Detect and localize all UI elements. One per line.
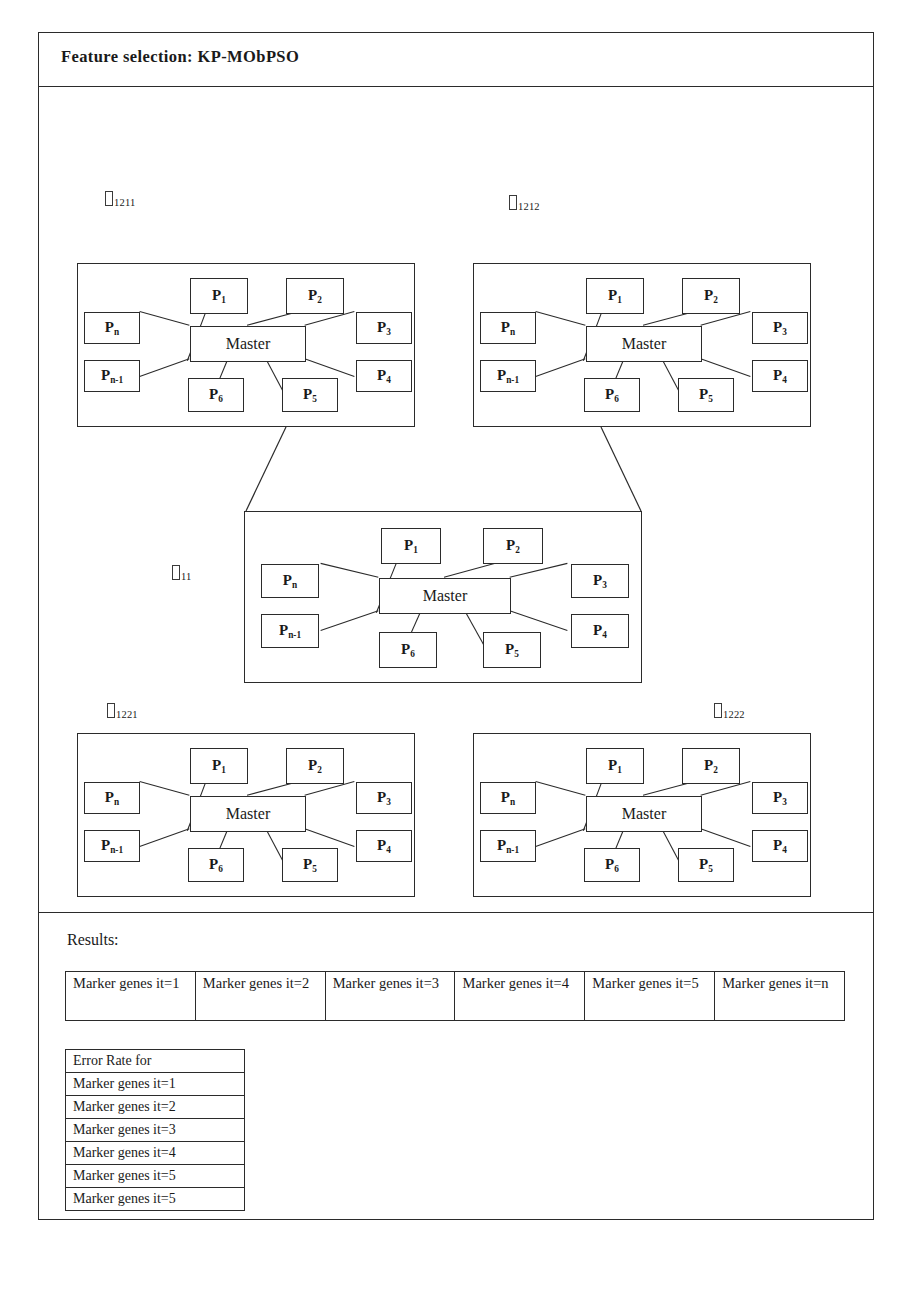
node-p4[interactable]: P4	[356, 360, 412, 392]
node-p2-label: P2	[506, 538, 520, 555]
tofu-glyph-icon	[172, 565, 180, 580]
node-p1[interactable]: P1	[586, 748, 644, 784]
node-master-label: Master	[226, 336, 270, 352]
node-p4[interactable]: P4	[752, 360, 808, 392]
node-p4-label: P4	[377, 368, 391, 385]
cluster-top-right[interactable]: Master P1 P2 P3 P4 P5 P6 Pn Pn-1	[473, 263, 811, 427]
node-p5[interactable]: P5	[282, 378, 338, 412]
node-master-label: Master	[423, 588, 467, 604]
cluster-center[interactable]: Master P1 P2 P3 P4 P5 P6 Pn Pn-1	[244, 511, 642, 683]
node-p4[interactable]: P4	[571, 614, 629, 648]
node-pn-1[interactable]: Pn-1	[480, 360, 536, 392]
node-p5[interactable]: P5	[483, 632, 541, 668]
marker-genes-table: Marker genes it=1 Marker genes it=2 Mark…	[65, 971, 845, 1021]
node-p4[interactable]: P4	[356, 830, 412, 862]
marker-cell-1[interactable]: Marker genes it=1	[66, 972, 196, 1021]
cluster-bottom-left[interactable]: Master P1 P2 P3 P4 P5 P6 Pn Pn-1	[77, 733, 415, 897]
node-p1[interactable]: P1	[586, 278, 644, 314]
node-p1[interactable]: P1	[190, 278, 248, 314]
node-p5[interactable]: P5	[282, 848, 338, 882]
error-table-header: Error Rate for	[66, 1050, 245, 1073]
error-row-1[interactable]: Marker genes it=1	[66, 1073, 245, 1096]
table-row: Marker genes it=1 Marker genes it=2 Mark…	[66, 972, 845, 1021]
node-pn-1[interactable]: Pn-1	[480, 830, 536, 862]
node-p2[interactable]: P2	[286, 278, 344, 314]
node-master[interactable]: Master	[586, 796, 702, 832]
node-p3-label: P3	[773, 790, 787, 807]
cluster-label-1222: 1222	[714, 703, 745, 720]
error-row-6[interactable]: Marker genes it=5	[66, 1188, 245, 1211]
node-master[interactable]: Master	[586, 326, 702, 362]
cluster-bottom-right[interactable]: Master P1 P2 P3 P4 P5 P6 Pn Pn-1	[473, 733, 811, 897]
node-p3-label: P3	[377, 790, 391, 807]
node-master-label: Master	[226, 806, 270, 822]
results-heading: Results:	[67, 931, 119, 949]
node-p6-label: P6	[209, 857, 223, 874]
cluster-label-11: 11	[172, 565, 192, 582]
node-p2[interactable]: P2	[286, 748, 344, 784]
node-pn-1[interactable]: Pn-1	[84, 360, 140, 392]
node-p6[interactable]: P6	[379, 632, 437, 668]
node-p2-label: P2	[308, 288, 322, 305]
node-p3[interactable]: P3	[571, 564, 629, 598]
node-master-label: Master	[622, 336, 666, 352]
node-p6[interactable]: P6	[584, 378, 640, 412]
node-p6[interactable]: P6	[584, 848, 640, 882]
node-pn-label: Pn	[501, 320, 515, 337]
node-p2[interactable]: P2	[682, 748, 740, 784]
node-p3[interactable]: P3	[752, 782, 808, 814]
error-row-3[interactable]: Marker genes it=3	[66, 1119, 245, 1142]
node-p5[interactable]: P5	[678, 848, 734, 882]
node-p6[interactable]: P6	[188, 378, 244, 412]
node-p1-label: P1	[404, 538, 418, 555]
node-pn-1[interactable]: Pn-1	[261, 614, 319, 648]
marker-cell-2[interactable]: Marker genes it=2	[195, 972, 325, 1021]
node-p4[interactable]: P4	[752, 830, 808, 862]
node-master[interactable]: Master	[190, 796, 306, 832]
node-p3[interactable]: P3	[356, 312, 412, 344]
node-pn[interactable]: Pn	[84, 782, 140, 814]
node-p6-label: P6	[209, 387, 223, 404]
node-p2-label: P2	[704, 758, 718, 775]
node-p1-label: P1	[212, 758, 226, 775]
node-p5-label: P5	[699, 387, 713, 404]
marker-cell-5[interactable]: Marker genes it=5	[585, 972, 715, 1021]
node-p1[interactable]: P1	[190, 748, 248, 784]
node-pn-label: Pn	[283, 573, 297, 590]
node-pn-1-label: Pn-1	[497, 368, 519, 385]
node-pn[interactable]: Pn	[261, 564, 319, 598]
node-p6-label: P6	[605, 387, 619, 404]
node-p5[interactable]: P5	[678, 378, 734, 412]
cluster-top-left[interactable]: Master P1 P2 P3 P4 P5 P6 Pn Pn-1	[77, 263, 415, 427]
marker-cell-3[interactable]: Marker genes it=3	[325, 972, 455, 1021]
node-p3[interactable]: P3	[752, 312, 808, 344]
node-p4-label: P4	[773, 368, 787, 385]
table-row: Marker genes it=4	[66, 1142, 245, 1165]
error-row-5[interactable]: Marker genes it=5	[66, 1165, 245, 1188]
node-p4-label: P4	[593, 623, 607, 640]
error-row-4[interactable]: Marker genes it=4	[66, 1142, 245, 1165]
diagram-area: 1211 1212 11 1221 1222 M	[39, 87, 873, 913]
cluster-label-1212: 1212	[509, 195, 540, 212]
node-p1[interactable]: P1	[381, 528, 441, 564]
error-row-2[interactable]: Marker genes it=2	[66, 1096, 245, 1119]
marker-cell-4[interactable]: Marker genes it=4	[455, 972, 585, 1021]
node-p3[interactable]: P3	[356, 782, 412, 814]
tofu-glyph-icon	[107, 703, 115, 718]
node-pn[interactable]: Pn	[480, 312, 536, 344]
node-pn-1-label: Pn-1	[101, 838, 123, 855]
node-master[interactable]: Master	[190, 326, 306, 362]
node-pn[interactable]: Pn	[84, 312, 140, 344]
marker-cell-6[interactable]: Marker genes it=n	[715, 972, 845, 1021]
node-pn-1[interactable]: Pn-1	[84, 830, 140, 862]
node-pn-1-label: Pn-1	[497, 838, 519, 855]
node-p6-label: P6	[605, 857, 619, 874]
node-pn[interactable]: Pn	[480, 782, 536, 814]
node-p3-label: P3	[377, 320, 391, 337]
node-master[interactable]: Master	[379, 578, 511, 614]
node-p2[interactable]: P2	[682, 278, 740, 314]
node-p2[interactable]: P2	[483, 528, 543, 564]
cluster-label-1211: 1211	[105, 191, 135, 208]
node-p6[interactable]: P6	[188, 848, 244, 882]
results-area: Results: Marker genes it=1 Marker genes …	[39, 913, 873, 1219]
